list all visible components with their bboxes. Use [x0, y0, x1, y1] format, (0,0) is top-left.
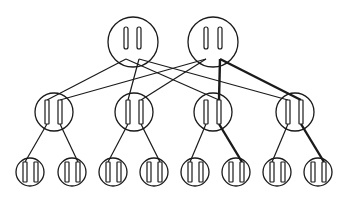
rod-element [34, 162, 38, 182]
connection-line [141, 59, 206, 100]
connection-line [60, 124, 78, 162]
node-circle [276, 93, 314, 131]
node-b6 [222, 158, 250, 186]
rod-element [281, 162, 285, 182]
rod-element [106, 162, 110, 182]
rod-element [139, 100, 143, 124]
rod-element [240, 162, 244, 182]
node-circle [181, 158, 209, 186]
node-circle [304, 158, 332, 186]
connection-line [141, 124, 160, 162]
node-circle [108, 17, 158, 67]
connection-line [190, 124, 206, 162]
rod-element [76, 162, 80, 182]
rod-element [218, 27, 222, 49]
connection-line [272, 124, 288, 162]
rod-element [204, 27, 208, 49]
rod-element [126, 100, 130, 124]
node-circle [140, 158, 168, 186]
node-circle [58, 158, 86, 186]
node-b3 [99, 158, 127, 186]
connection-line [139, 59, 288, 100]
node-b4 [140, 158, 168, 186]
rod-element [188, 162, 192, 182]
rod-element [147, 162, 151, 182]
connection-line [108, 124, 128, 162]
rod-element [137, 27, 141, 49]
node-b5 [181, 158, 209, 186]
node-b2 [58, 158, 86, 186]
connection-line [60, 59, 206, 100]
connection-line [301, 124, 324, 162]
rod-element [311, 162, 315, 182]
node-circle [35, 93, 73, 131]
rod-element [270, 162, 274, 182]
tree-diagram [0, 0, 345, 199]
node-circle [16, 158, 44, 186]
rod-element [65, 162, 69, 182]
connection-line [25, 124, 47, 162]
node-circle [99, 158, 127, 186]
circle-nodes [16, 17, 332, 186]
node-m1 [35, 93, 73, 131]
connection-line [219, 124, 242, 162]
node-b1 [16, 158, 44, 186]
node-circle [115, 93, 153, 131]
rod-element [299, 100, 303, 124]
rod-element [23, 162, 27, 182]
rod-element [229, 162, 233, 182]
node-t1 [108, 17, 158, 67]
rod-element [286, 100, 290, 124]
rod-element [58, 100, 62, 124]
rod-element [45, 100, 49, 124]
node-b7 [263, 158, 291, 186]
rod-element [204, 100, 208, 124]
node-b8 [304, 158, 332, 186]
rod-element [124, 27, 128, 49]
node-circle [188, 17, 238, 67]
node-m2 [115, 93, 153, 131]
node-circle [263, 158, 291, 186]
node-m3 [194, 93, 232, 131]
connection-lines [25, 59, 324, 162]
rod-element [322, 162, 326, 182]
rod-element [158, 162, 162, 182]
node-m4 [276, 93, 314, 131]
rod-element [199, 162, 203, 182]
rod-element [217, 100, 221, 124]
node-circle [222, 158, 250, 186]
rod-element [117, 162, 121, 182]
node-t2 [188, 17, 238, 67]
node-circle [194, 93, 232, 131]
